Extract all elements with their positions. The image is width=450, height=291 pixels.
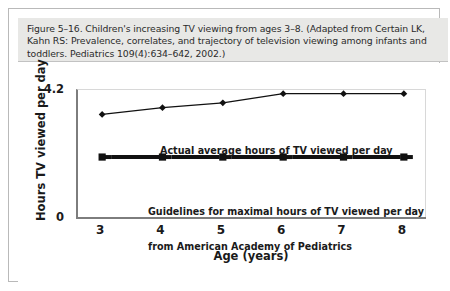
figure-caption-text: Figure 5–16. Children's increasing TV vi… (27, 23, 439, 60)
annotation-actual-series: Actual average hours of TV viewed per da… (160, 145, 393, 157)
series-actual-line (99, 90, 408, 118)
annotation-guidelines-series: Guidelines for maximal hours of TV viewe… (148, 183, 424, 275)
y-tick-label-max: 4.2 (30, 82, 64, 96)
y-tick-label-min: 0 (30, 210, 64, 224)
figure-caption: Figure 5–16. Children's increasing TV vi… (18, 18, 448, 62)
chart-area: Hours TV viewed per day 4.2 0 345678 Age… (18, 63, 448, 290)
figure-frame: Figure 5–16. Children's increasing TV vi… (8, 8, 440, 282)
annotation-guidelines-line1: Guidelines for maximal hours of TV viewe… (148, 206, 424, 218)
x-tick-label-3: 3 (80, 223, 120, 237)
annotation-guidelines-line2: from American Academy of Pediatrics (148, 241, 424, 253)
figure-page: Figure 5–16. Children's increasing TV vi… (0, 0, 450, 291)
